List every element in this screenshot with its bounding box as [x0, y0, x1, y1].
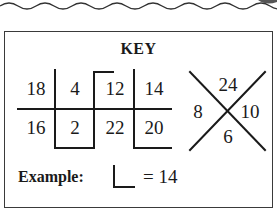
grid-cell-bottom-1: 16	[19, 118, 53, 137]
grid-cell-bottom-4: 20	[137, 118, 171, 137]
grid-cell-top-4: 14	[137, 79, 171, 98]
x-cell-right: 10	[233, 102, 267, 121]
grid-cell-top-1: 18	[19, 79, 53, 98]
grid-cell-bottom-3: 22	[98, 118, 132, 137]
x-cell-left: 8	[181, 102, 215, 121]
example-label: Example:	[18, 168, 84, 186]
grid-cell-top-2: 4	[58, 79, 92, 98]
x-cell-bottom: 6	[211, 127, 245, 146]
example-equation: = 14	[143, 166, 177, 188]
grid-cell-bottom-2: 2	[58, 118, 92, 137]
x-cell-top: 24	[211, 75, 245, 94]
grid-cell-top-3: 12	[98, 79, 132, 98]
